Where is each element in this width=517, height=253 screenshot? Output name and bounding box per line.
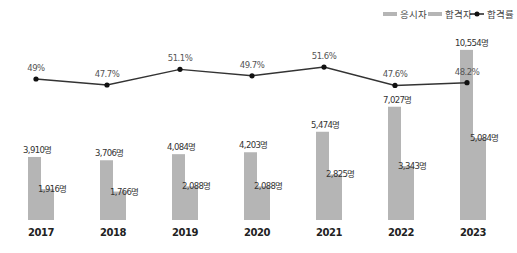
- combo-chart: 응시자 합격자 합격률 3,910명1,916명3,706명1,766명4,08…: [0, 0, 517, 253]
- passers-value-label: 2,088명: [254, 181, 283, 191]
- bar-passers-2020: [257, 186, 270, 220]
- passers-value-label: 3,343명: [398, 161, 427, 171]
- legend-applicants-swatch: [383, 12, 397, 16]
- applicants-value-label: 4,203명: [239, 140, 268, 150]
- rate-marker-2017: [33, 76, 38, 81]
- passers-value-label: 5,084명: [470, 133, 499, 143]
- chart-legend: 응시자 합격자 합격률: [383, 9, 514, 20]
- legend-passers-swatch: [428, 12, 442, 16]
- rate-marker-2020: [249, 73, 254, 78]
- applicants-value-label: 7,027명: [383, 95, 412, 105]
- rate-value-label: 47.6%: [383, 69, 408, 79]
- passers-value-label: 1,916명: [38, 184, 67, 194]
- x-axis-labels: 2017201820192020202120222023: [28, 227, 486, 238]
- rate-marker-2023: [464, 80, 469, 85]
- applicants-value-label: 3,706명: [95, 148, 124, 158]
- bar-passers-2022: [401, 166, 414, 220]
- applicants-value-label: 3,910명: [23, 145, 52, 155]
- legend-rate-label: 합격률: [487, 9, 514, 20]
- rate-value-label: 47.7%: [95, 69, 120, 79]
- bar-passers-2019: [185, 186, 198, 220]
- rate-marker-2018: [104, 82, 109, 87]
- bar-passers-2023: [473, 138, 486, 220]
- bar-passers-2021: [329, 174, 342, 220]
- x-axis-year-label: 2020: [244, 227, 270, 238]
- rate-value-label: 51.1%: [168, 53, 193, 63]
- x-axis-year-label: 2018: [100, 227, 126, 238]
- rate-value-label: 49%: [27, 63, 45, 73]
- rate-marker-2021: [321, 64, 326, 69]
- applicants-value-label: 4,084명: [167, 142, 196, 152]
- legend-applicants-label: 응시자: [400, 9, 427, 20]
- x-axis-year-label: 2019: [172, 227, 198, 238]
- rate-value-label: 48.2%: [455, 67, 480, 77]
- x-axis-year-label: 2017: [28, 227, 54, 238]
- chart-container: 응시자 합격자 합격률 3,910명1,916명3,706명1,766명4,08…: [0, 0, 517, 253]
- rate-line-series: 49%47.7%51.1%49.7%51.6%47.6%48.2%: [27, 51, 479, 88]
- applicants-value-label: 10,554명: [455, 38, 489, 48]
- x-axis-year-label: 2023: [460, 227, 486, 238]
- applicants-value-label: 5,474명: [311, 120, 340, 130]
- x-axis-year-label: 2022: [388, 227, 414, 238]
- legend-rate-line-icon: [470, 12, 484, 17]
- passers-value-label: 2,825명: [326, 169, 355, 179]
- rate-marker-2019: [177, 67, 182, 72]
- rate-marker-2022: [392, 83, 397, 88]
- passers-value-label: 2,088명: [182, 181, 211, 191]
- legend-passers-label: 합격자: [445, 9, 472, 20]
- passers-value-label: 1,766명: [110, 187, 139, 197]
- rate-value-label: 51.6%: [312, 51, 337, 61]
- rate-value-label: 49.7%: [240, 60, 265, 70]
- x-axis-year-label: 2021: [316, 227, 342, 238]
